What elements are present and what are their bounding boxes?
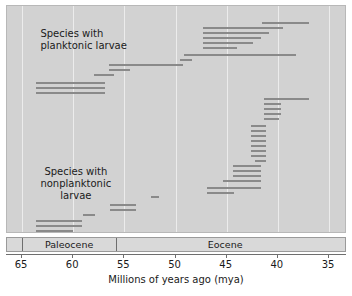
- range-bar: [264, 103, 281, 105]
- epoch-cell-eocene: Eocene: [116, 238, 334, 251]
- x-tick-35: [328, 254, 329, 258]
- x-tick-label-65: 65: [15, 259, 28, 270]
- range-bar: [251, 150, 265, 152]
- x-tick-60: [72, 254, 73, 258]
- range-bar: [223, 180, 262, 182]
- range-bar: [251, 140, 265, 142]
- x-tick-label-40: 40: [270, 259, 283, 270]
- epoch-cell-paleocene: Paleocene: [22, 238, 116, 251]
- range-bar: [36, 87, 105, 89]
- range-bar: [233, 170, 262, 172]
- chart-figure: Species with planktonic larvae Species w…: [0, 0, 352, 296]
- range-bar: [264, 113, 281, 115]
- x-tick-label-45: 45: [219, 259, 232, 270]
- range-bar: [36, 82, 105, 84]
- range-bar: [94, 74, 114, 76]
- range-bar: [36, 230, 73, 232]
- range-bar: [203, 27, 283, 29]
- planktonic-group-label: Species with planktonic larvae: [40, 28, 126, 52]
- range-bar: [251, 155, 265, 157]
- range-bar: [110, 209, 136, 211]
- range-bar: [203, 32, 268, 34]
- x-tick-40: [277, 254, 278, 258]
- gridline-45: [227, 6, 228, 232]
- nonplanktonic-group-label: Species with nonplanktonic larvae: [40, 166, 111, 202]
- plot-area: Species with planktonic larvae Species w…: [6, 5, 346, 233]
- range-bar: [36, 220, 82, 222]
- range-bar: [264, 108, 281, 110]
- range-bar: [264, 118, 279, 120]
- x-tick-50: [175, 254, 176, 258]
- gridline-50: [176, 6, 177, 232]
- range-bar: [251, 125, 265, 127]
- range-bar: [233, 175, 262, 177]
- range-bar: [262, 22, 308, 24]
- range-bar: [184, 54, 297, 56]
- range-bar: [207, 187, 261, 189]
- range-bar: [203, 42, 253, 44]
- gridline-65: [22, 6, 23, 232]
- range-bar: [203, 37, 261, 39]
- x-tick-65: [21, 254, 22, 258]
- range-bar: [151, 196, 159, 198]
- range-bar: [233, 165, 262, 167]
- range-bar: [36, 92, 105, 94]
- x-tick-55: [123, 254, 124, 258]
- range-bar: [251, 130, 265, 132]
- range-bar: [251, 135, 265, 137]
- range-bar: [251, 145, 265, 147]
- gridline-35: [329, 6, 330, 232]
- range-bar: [180, 59, 192, 61]
- range-bar: [264, 98, 309, 100]
- range-bar: [83, 214, 94, 216]
- range-bar: [109, 69, 130, 71]
- x-tick-45: [226, 254, 227, 258]
- epoch-divider: [116, 238, 117, 251]
- x-tick-label-50: 50: [168, 259, 181, 270]
- epoch-band: PaleoceneEocene: [6, 237, 346, 252]
- x-axis-title: Millions of years ago (mya): [0, 274, 352, 285]
- x-tick-label-55: 55: [117, 259, 130, 270]
- range-bar: [255, 160, 265, 162]
- range-bar: [36, 225, 82, 227]
- range-bar: [110, 204, 136, 206]
- epoch-divider: [22, 238, 23, 251]
- x-axis-line: [6, 254, 346, 255]
- x-tick-label-35: 35: [322, 259, 335, 270]
- range-bar: [203, 47, 237, 49]
- range-bar: [109, 64, 183, 66]
- x-tick-label-60: 60: [66, 259, 79, 270]
- range-bar: [207, 192, 234, 194]
